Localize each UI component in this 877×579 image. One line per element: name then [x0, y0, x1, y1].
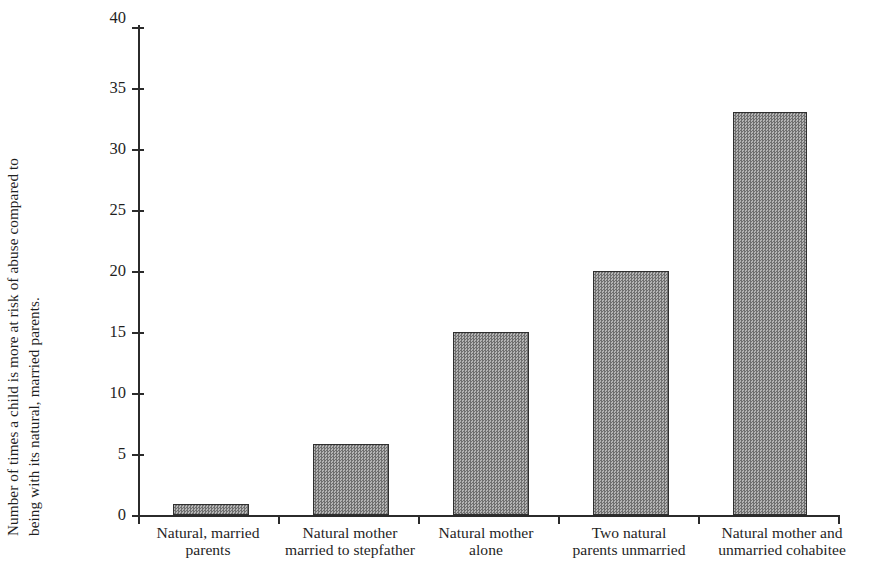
x-label-3-line-2: parents unmarried	[548, 541, 710, 558]
bar-chart: Number of times a child is more at risk …	[0, 0, 877, 579]
bar-natural-mother-and-unmarried-cohabitee	[733, 112, 807, 515]
bar-natural-mother-married-to-stepfather	[313, 444, 389, 515]
x-label-0-line-2: parents	[128, 541, 288, 558]
y-tick-10	[132, 393, 144, 395]
y-tick-label-30-wrap: 30	[86, 141, 126, 157]
x-label-2-line-2: alone	[411, 541, 561, 558]
x-tick-1	[278, 516, 280, 524]
x-tick-3	[558, 516, 560, 524]
y-axis-title: Number of times a child is more at risk …	[0, 0, 96, 520]
x-label-4: Natural mother and unmarried cohabitee	[692, 524, 872, 559]
y-tick-5	[132, 454, 144, 456]
x-label-3: Two natural parents unmarried	[548, 524, 710, 559]
y-tick-label-25-wrap: 25	[86, 202, 126, 218]
x-tick-2	[418, 516, 420, 524]
y-tick-label-25: 25	[92, 202, 126, 219]
x-axis-line	[138, 515, 840, 517]
y-tick-30	[132, 149, 144, 151]
y-tick-label-35-wrap: 35	[86, 80, 126, 96]
y-tick-label-10-wrap: 10	[86, 385, 126, 401]
x-label-4-line-2: unmarried cohabitee	[692, 541, 872, 558]
y-tick-label-35: 35	[92, 80, 126, 97]
y-tick-label-15-wrap: 15	[86, 324, 126, 340]
y-tick-25	[132, 210, 144, 212]
x-label-1-line-2: married to stepfather	[265, 541, 435, 558]
y-tick-label-10: 10	[92, 385, 126, 402]
y-tick-15	[132, 332, 144, 334]
x-label-0: Natural, married parents	[128, 524, 288, 559]
bar-natural-mother-alone	[453, 332, 529, 515]
y-tick-20	[132, 271, 144, 273]
x-label-4-line-1: Natural mother and	[692, 524, 872, 541]
y-tick-label-5: 5	[92, 446, 126, 463]
x-label-1: Natural mother married to stepfather	[265, 524, 435, 559]
y-tick-40	[132, 27, 144, 29]
y-tick-label-0: 0	[92, 507, 126, 524]
x-label-1-line-1: Natural mother	[265, 524, 435, 541]
y-tick-label-20: 20	[92, 263, 126, 280]
x-label-3-line-1: Two natural	[548, 524, 710, 541]
y-tick-label-15: 15	[92, 324, 126, 341]
y-tick-label-0-wrap: 0	[86, 507, 126, 523]
x-label-2: Natural mother alone	[411, 524, 561, 559]
y-tick-35	[132, 88, 144, 90]
y-tick-label-30: 30	[92, 141, 126, 158]
y-axis-title-line-1: Number of times a child is more at risk …	[4, 20, 24, 536]
x-tick-4	[698, 516, 700, 524]
y-axis-title-line-2: being with its natural, married parents.	[25, 20, 45, 536]
y-tick-label-40-wrap: 40	[86, 10, 126, 26]
bar-natural-married-parents	[173, 504, 249, 515]
x-tick-0	[138, 516, 140, 524]
bar-two-natural-parents-unmarried	[593, 271, 669, 515]
y-tick-label-5-wrap: 5	[86, 446, 126, 462]
x-tick-5	[838, 516, 840, 524]
y-tick-label-40: 40	[92, 10, 126, 27]
x-label-0-line-1: Natural, married	[128, 524, 288, 541]
x-label-2-line-1: Natural mother	[411, 524, 561, 541]
y-tick-label-20-wrap: 20	[86, 263, 126, 279]
